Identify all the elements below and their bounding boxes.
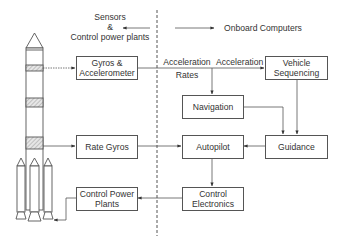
rate-gyros-box: Rate Gyros	[76, 135, 138, 159]
navigation-box: Navigation	[182, 95, 244, 119]
onboard-computers-label: Onboard Computers	[224, 23, 302, 33]
diagram-canvas	[0, 0, 348, 244]
acceleration-label: Acceleration	[216, 57, 263, 67]
guidance-box: Guidance	[265, 135, 328, 159]
control-elec-line2: Electronics	[192, 199, 234, 209]
vehicle-sequencing-box: Vehicle Sequencing	[265, 56, 328, 80]
rocket-icon	[16, 33, 53, 221]
vehicle-seq-line1: Vehicle	[274, 58, 319, 68]
power-plants-to-rocket-arrow	[54, 198, 76, 220]
control-power-plants-box: Control Power Plants	[76, 187, 138, 211]
control-elec-line1: Control	[192, 189, 234, 199]
sensors-legend-line2: &	[70, 22, 150, 32]
vehicle-seq-line2: Sequencing	[274, 68, 319, 78]
control-power-line1: Control Power	[80, 189, 134, 199]
navigation-to-guidance-arrow	[243, 107, 283, 134]
sensors-legend-label: Sensors & Control power plants	[70, 12, 150, 42]
gyros-accel-line2: Accelerometer	[79, 68, 134, 78]
sensors-legend-line1: Sensors	[70, 12, 150, 22]
acceleration-rates-line1: Acceleration	[158, 57, 216, 67]
sensors-legend-line3: Control power plants	[70, 32, 150, 42]
control-power-line2: Plants	[80, 199, 134, 209]
autopilot-box: Autopilot	[182, 135, 244, 159]
control-electronics-box: Control Electronics	[182, 187, 244, 211]
acceleration-rates-label: Acceleration Rates	[158, 57, 216, 80]
acceleration-rates-line2: Rates	[158, 70, 216, 80]
gyros-accelerometer-box: Gyros & Accelerometer	[76, 56, 138, 80]
gyros-accel-line1: Gyros &	[79, 58, 134, 68]
